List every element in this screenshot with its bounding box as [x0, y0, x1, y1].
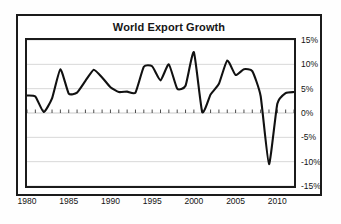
plot-svg — [27, 40, 294, 186]
plot-area — [25, 38, 296, 188]
chart-title-band: World Export Growth — [18, 16, 320, 38]
y-axis-label-neg15pct: -15% — [301, 182, 321, 191]
x-axis-label-1985: 1985 — [59, 196, 78, 206]
y-axis-label-15pct: 15% — [301, 36, 318, 45]
x-axis-label-2010: 2010 — [268, 196, 287, 206]
chart-figure: World Export Growth 15%10%5%0%-5%-10%-15… — [0, 0, 341, 224]
x-axis-label-2005: 2005 — [226, 196, 245, 206]
x-axis-label-1995: 1995 — [143, 196, 162, 206]
x-axis-tick-marks — [27, 110, 294, 114]
series-line-world-export-growth — [27, 52, 294, 164]
y-axis-labels: 15%10%5%0%-5%-10%-15% — [299, 38, 339, 188]
y-axis-label-neg5pct: -5% — [301, 133, 316, 142]
x-axis-label-2000: 2000 — [184, 196, 203, 206]
chart-title: World Export Growth — [113, 21, 225, 33]
y-axis-label-10pct: 10% — [301, 60, 318, 69]
x-axis-label-1990: 1990 — [101, 196, 120, 206]
y-axis-label-5pct: 5% — [301, 84, 313, 93]
x-axis-labels: 1980198519901995200020052010 — [16, 196, 322, 212]
x-axis-label-1980: 1980 — [18, 196, 37, 206]
y-axis-label-0pct: 0% — [301, 109, 313, 118]
y-axis-label-neg10pct: -10% — [301, 157, 321, 166]
